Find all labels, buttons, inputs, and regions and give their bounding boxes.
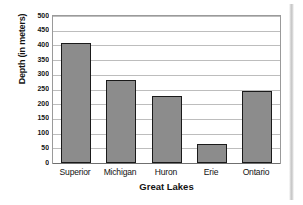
y-tick-label-200: 200 <box>27 100 49 107</box>
y-tick-label-100: 100 <box>27 129 49 136</box>
y-axis-title: Depth (in meters) <box>17 0 27 119</box>
gridline-500 <box>53 16 280 17</box>
y-tick-label-450: 450 <box>27 26 49 33</box>
page-scan-edge-artifact <box>289 4 294 200</box>
y-tick-label-350: 350 <box>27 56 49 63</box>
y-tick-label-150: 150 <box>27 114 49 121</box>
y-tick-label-400: 400 <box>27 41 49 48</box>
y-tick-label-250: 250 <box>27 85 49 92</box>
y-tick-label-50: 50 <box>27 144 49 151</box>
bar-superior <box>61 43 91 163</box>
axis-baseline <box>53 163 280 164</box>
bar-erie <box>197 144 227 163</box>
gridline-450 <box>53 31 280 32</box>
y-tick-label-300: 300 <box>27 70 49 77</box>
chart-figure: Depth (in meters) 0501001502002503003504… <box>0 0 303 205</box>
y-tick-label-500: 500 <box>27 12 49 19</box>
bar-huron <box>152 96 182 163</box>
plot-inner <box>53 16 280 163</box>
x-axis-title: Great Lakes <box>52 181 281 192</box>
plot-area <box>52 15 281 164</box>
x-tick-label-ontario: Ontario <box>227 167 286 177</box>
bar-michigan <box>106 80 136 163</box>
y-tick-label-0: 0 <box>27 159 49 166</box>
bar-ontario <box>242 91 272 163</box>
